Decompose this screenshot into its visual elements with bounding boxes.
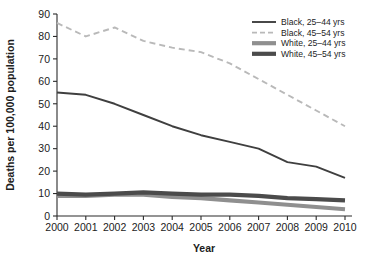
x-axis-tick-label: 2010	[333, 221, 357, 233]
y-axis-tick-label: 10	[38, 187, 50, 199]
legend-label: Black, 25–44 yrs	[281, 17, 345, 27]
x-axis-tick-label: 2005	[189, 221, 213, 233]
legend-label: White, 45–54 yrs	[281, 49, 345, 59]
x-axis-tick-label: 2000	[45, 221, 69, 233]
y-axis-tick-label: 20	[38, 165, 50, 177]
y-axis-tick-label: 40	[38, 120, 50, 132]
y-axis-tick-label: 60	[38, 75, 50, 87]
x-axis-tick-label: 2009	[305, 221, 329, 233]
y-axis-tick-label: 30	[38, 142, 50, 154]
y-axis-title: Deaths per 100,000 population	[4, 39, 16, 191]
chart-legend: Black, 25–44 yrsBlack, 45–54 yrsWhite, 2…	[252, 17, 345, 59]
chart-canvas: 0102030405060708090 20002001200220032004…	[0, 0, 374, 262]
legend-label: White, 25–44 yrs	[281, 38, 345, 48]
y-axis-ticks	[53, 14, 57, 216]
line-chart: 0102030405060708090 20002001200220032004…	[0, 0, 374, 262]
x-axis-tick-label: 2008	[276, 221, 300, 233]
x-axis-tick-label: 2007	[247, 221, 271, 233]
y-axis-tick-label: 80	[38, 30, 50, 42]
legend-label: Black, 45–54 yrs	[281, 28, 345, 38]
x-axis-tick-label: 2002	[103, 221, 127, 233]
y-axis-tick-label: 90	[38, 8, 50, 20]
x-axis-ticks	[57, 216, 345, 220]
series-line	[57, 93, 345, 178]
y-axis-tick-label: 50	[38, 98, 50, 110]
x-axis-tick-labels: 2000200120022003200420052006200720082009…	[45, 221, 357, 233]
y-axis-tick-label: 0	[44, 210, 50, 222]
y-axis-tick-label: 70	[38, 53, 50, 65]
x-axis-tick-label: 2001	[74, 221, 98, 233]
x-axis-title: Year	[193, 242, 215, 254]
x-axis-tick-label: 2006	[218, 221, 242, 233]
y-axis-tick-labels: 0102030405060708090	[38, 8, 50, 222]
x-axis-tick-label: 2003	[132, 221, 156, 233]
x-axis-tick-label: 2004	[161, 221, 185, 233]
